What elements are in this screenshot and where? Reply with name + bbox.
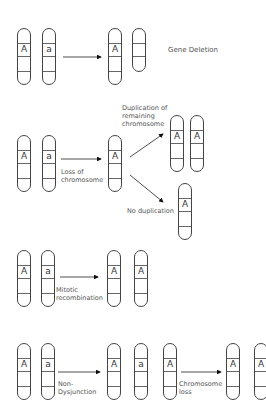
label-loss-of-chromosome: Loss of chromosome [61,168,103,184]
chromosome: A [17,28,31,85]
chromosome: A [108,135,122,192]
allele-label: a [42,265,54,278]
label-duplication: Duplication of remaining chromosome [122,104,167,128]
allele-label: A [171,130,183,143]
chromosome: A [108,28,122,85]
label-gene-deletion: Gene Deletion [168,46,218,54]
allele-label: a [43,43,55,56]
chromosome: A [17,250,31,307]
chromosome: A [134,250,148,307]
label-line: Duplication of [122,104,167,112]
chromosome: A [254,343,266,400]
label-mitotic-recombination: Mitotic recombination [56,286,103,302]
arrow-duplication [130,134,163,157]
chromosome: A [17,135,31,192]
allele-label: A [18,43,30,56]
chromosome: A [226,343,240,400]
label-line: loss [179,388,222,396]
chromosome: A [163,343,177,400]
chromosome: A [107,343,121,400]
allele-label: A [18,265,30,278]
label-line: Chromosome [179,380,222,388]
label-line: Mitotic [56,286,103,294]
arrow-no-duplication [130,175,163,202]
label-line: Dysjunction [58,388,96,396]
chromosome: a [42,135,56,192]
allele-label: a [135,358,147,371]
label-line: chromosome [61,176,103,184]
label-line: Loss of [61,168,103,176]
chromosome: a [41,250,55,307]
chromosome: A [178,183,192,240]
label-line: chromosome [122,120,167,128]
label-chromosome-loss: Chromosome loss [179,380,222,396]
allele-label: A [109,150,121,163]
label-non-disjunction: Non- Dysjunction [58,380,96,396]
allele-label: A [109,43,121,56]
chromosome: A [17,343,31,400]
allele-label: A [255,358,266,371]
allele-label: A [108,358,120,371]
allele-label: a [43,150,55,163]
chromosome: A [170,115,184,172]
chromosome: a [42,28,56,85]
label-line: remaining [122,112,167,120]
chromosome: A [190,115,204,172]
label-line: recombination [56,294,103,302]
chromosome: a [134,343,148,400]
allele-label: a [42,358,54,371]
allele-label: A [179,198,191,211]
chromosome-deleted [132,28,146,72]
allele-label: A [18,358,30,371]
allele-label: A [191,130,203,143]
allele-label: A [108,265,120,278]
allele-label: A [135,265,147,278]
label-no-duplication: No duplication [127,207,174,215]
chromosome: a [41,343,55,400]
allele-label: A [227,358,239,371]
chromosome: A [107,250,121,307]
allele-label: A [18,150,30,163]
allele-label: A [164,358,176,371]
label-line: Non- [58,380,96,388]
